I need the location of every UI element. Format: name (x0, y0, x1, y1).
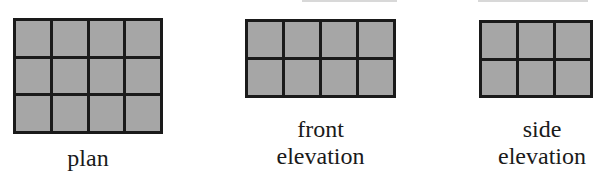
grid-cell (322, 60, 356, 95)
grid-cell (482, 23, 516, 58)
side-elevation-grid (479, 20, 593, 98)
grid-cell (248, 60, 282, 95)
grid-cell (359, 60, 393, 95)
front-elevation-grid (245, 19, 396, 98)
grid-cell (556, 23, 590, 58)
grid-cell (53, 96, 87, 131)
grid-cell (16, 96, 50, 131)
grid-cell (519, 23, 553, 58)
grid-cell (90, 21, 124, 56)
grid-cell (53, 21, 87, 56)
front-elevation-label: front elevation (245, 116, 396, 170)
grid-cell (53, 59, 87, 94)
grid-cell (322, 22, 356, 57)
grid-cell (556, 61, 590, 96)
clipped-text-artifact (478, 0, 588, 2)
plan-view-grid (13, 18, 163, 134)
side-elevation-label: side elevation (477, 116, 597, 170)
grid-cell (126, 59, 160, 94)
grid-cell (90, 96, 124, 131)
grid-cell (90, 59, 124, 94)
grid-cell (126, 21, 160, 56)
grid-cell (519, 61, 553, 96)
grid-cell (285, 60, 319, 95)
grid-cell (248, 22, 282, 57)
grid-cell (16, 59, 50, 94)
grid-cell (359, 22, 393, 57)
grid-cell (482, 61, 516, 96)
grid-cell (285, 22, 319, 57)
clipped-text-artifact (302, 0, 397, 2)
plan-label: plan (13, 145, 163, 172)
grid-cell (126, 96, 160, 131)
grid-cell (16, 21, 50, 56)
